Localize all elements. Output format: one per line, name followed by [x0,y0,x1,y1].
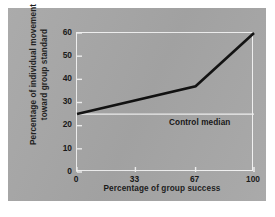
x-tick-label: 33 [119,175,149,183]
x-tick-label: 0 [61,175,91,183]
y-tick-label: 50 [50,51,72,59]
plot-area: Control median [76,32,253,171]
y-tick-label: 60 [50,28,72,36]
data-series-group [77,33,254,114]
chart-screenshot: Percentage of individual movement toward… [0,0,275,217]
y-tick-label: 0 [50,167,72,175]
y-tick-label: 40 [50,74,72,82]
plot-canvas [77,33,254,172]
control-median-label: Control median [169,118,230,127]
y-tick-label: 10 [50,144,72,152]
y-tick-label: 20 [50,120,72,128]
y-tick-label: 30 [50,97,72,105]
figure-panel: Percentage of individual movement toward… [8,8,266,201]
x-tick-label: 100 [238,175,268,183]
x-tick-label: 67 [180,175,210,183]
x-axis-title: Percentage of group success [62,184,262,193]
tick-marks [77,33,254,172]
y-axis-title: Percentage of individual movement toward… [29,0,50,150]
